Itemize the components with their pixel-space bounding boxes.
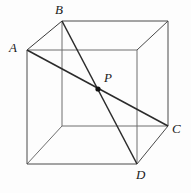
diagonal-BD [62,21,137,164]
vertex-label-a: A [9,41,17,54]
edge-connector-bottom-left [27,126,62,164]
edge-connector-top-right [137,21,168,50]
point-P-marker [95,86,100,91]
space-diagonals [27,21,168,164]
cube-connecting-edges [27,21,168,164]
cube-front-face [27,50,137,164]
vertex-label-p: P [104,71,112,84]
cube-back-face [62,21,168,126]
cube-svg [0,0,191,193]
edge-connector-top-left [27,21,62,50]
cube-diagram: A B C D P [0,0,191,193]
edge-connector-bottom-right [137,126,168,164]
vertex-label-c: C [172,122,181,135]
vertex-label-b: B [55,3,63,16]
vertex-label-d: D [136,168,145,181]
